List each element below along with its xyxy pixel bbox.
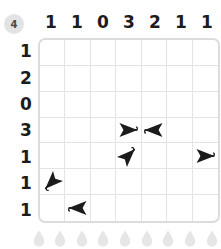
row-clue-2: 2 [14,64,38,90]
grid-cell[interactable] [65,118,90,144]
row-clue-4: 3 [14,117,38,143]
grid-cell[interactable] [167,195,192,221]
grid-cell[interactable] [193,40,218,66]
grid-cell[interactable] [65,40,90,66]
grid-cell[interactable] [167,92,192,118]
grid-cell[interactable] [193,169,218,195]
grid-cell[interactable] [65,195,90,221]
grid-cell[interactable] [142,118,167,144]
grid-cell[interactable] [167,118,192,144]
droplet-row [32,228,218,248]
water-droplet-icon [162,229,175,247]
grid-cell[interactable] [142,195,167,221]
grid-cell[interactable] [116,143,141,169]
row-clue-6: 1 [14,170,38,196]
grid-cell[interactable] [65,92,90,118]
arrow-left-icon[interactable] [193,143,218,168]
water-droplet-icon [32,229,45,247]
row-clues: 1203111 [14,38,38,223]
grid-cell[interactable] [116,40,141,66]
grid-cell[interactable] [193,92,218,118]
grid-cell[interactable] [167,66,192,92]
grid-cell[interactable] [116,66,141,92]
level-badge: 4 [4,14,24,34]
grid-cell[interactable] [91,118,116,144]
grid-cell[interactable] [167,169,192,195]
column-clue-2: 1 [64,8,90,36]
water-droplet-icon [205,229,218,247]
grid-cell[interactable] [142,143,167,169]
grid-cell[interactable] [193,143,218,169]
grid-cell[interactable] [193,66,218,92]
grid-cell[interactable] [167,143,192,169]
water-droplet-icon [119,229,132,247]
arrow-down-left-icon[interactable] [116,143,140,168]
water-droplet-icon [75,229,88,247]
grid-cell[interactable] [40,66,65,92]
grid-cell[interactable] [91,66,116,92]
grid-cell[interactable] [116,195,141,221]
grid-cell[interactable] [65,169,90,195]
column-clue-6: 1 [168,8,194,36]
grid-cell[interactable] [193,195,218,221]
grid-cell[interactable] [116,92,141,118]
grid-cell[interactable] [193,118,218,144]
arrow-left-icon[interactable] [116,118,140,143]
grid-cell[interactable] [40,143,65,169]
grid-cell[interactable] [65,66,90,92]
grid-cell[interactable] [167,40,192,66]
arrow-right-icon[interactable] [142,118,166,143]
row-clue-7: 1 [14,197,38,223]
grid-container [38,38,220,223]
grid[interactable] [40,40,218,221]
grid-cell[interactable] [40,40,65,66]
column-clue-7: 1 [194,8,220,36]
arrow-right-icon[interactable] [65,195,89,221]
grid-cell[interactable] [116,118,141,144]
row-clue-1: 1 [14,38,38,64]
row-clue-3: 0 [14,91,38,117]
arrow-up-right-icon[interactable] [40,169,64,194]
water-droplet-icon [54,229,67,247]
grid-cell[interactable] [91,92,116,118]
grid-cell[interactable] [65,143,90,169]
row-clue-5: 1 [14,144,38,170]
grid-cell[interactable] [91,169,116,195]
grid-cell[interactable] [142,169,167,195]
grid-cell[interactable] [91,40,116,66]
grid-cell[interactable] [40,92,65,118]
water-droplet-icon [97,229,110,247]
grid-cell[interactable] [116,169,141,195]
grid-cell[interactable] [142,92,167,118]
column-clue-4: 3 [116,8,142,36]
grid-cell[interactable] [40,169,65,195]
column-clue-1: 1 [38,8,64,36]
column-clues: 1103211 [38,8,220,36]
puzzle-board: 4 1103211 1203111 [0,0,221,249]
grid-cell[interactable] [40,118,65,144]
column-clue-5: 2 [142,8,168,36]
water-droplet-icon [183,229,196,247]
grid-cell[interactable] [91,195,116,221]
grid-cell[interactable] [40,195,65,221]
grid-cell[interactable] [142,40,167,66]
grid-cell[interactable] [91,143,116,169]
grid-cell[interactable] [142,66,167,92]
column-clue-3: 0 [90,8,116,36]
water-droplet-icon [140,229,153,247]
